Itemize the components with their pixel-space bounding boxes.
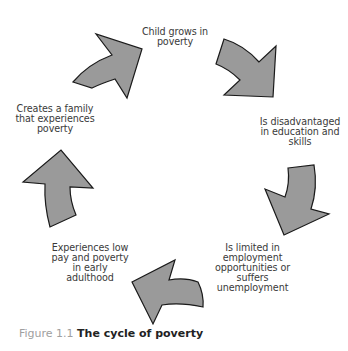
arrow-icon-2-to-3 <box>265 165 329 235</box>
stage-label-disadvantaged: Is disadvantaged in education and skills <box>255 117 345 147</box>
figure-caption: Figure 1.1 The cycle of poverty <box>19 327 203 340</box>
stage-label-low-pay: Experiences low pay and poverty in early… <box>50 243 130 283</box>
arrow-icon-1-to-2 <box>216 39 276 97</box>
stage-label-creates-family: Creates a family that experiences povert… <box>15 104 95 134</box>
arrow-icon-3-to-4 <box>132 260 203 324</box>
arrow-icon-4-to-5 <box>23 150 93 227</box>
figure-number: Figure 1.1 <box>19 327 74 340</box>
cycle-arrows <box>0 0 348 351</box>
arrow-icon-5-to-1 <box>73 34 142 98</box>
stage-label-limited-employment: Is limited in employment opportunities o… <box>210 243 295 293</box>
stage-label-child-grows: Child grows in poverty <box>140 27 210 47</box>
figure-title: The cycle of poverty <box>77 327 203 340</box>
